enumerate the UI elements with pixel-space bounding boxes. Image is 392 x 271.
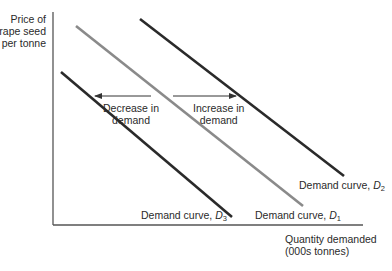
label-prefix: Demand curve, (141, 209, 215, 221)
x-axis-label-line: (000s tonnes) (285, 245, 377, 257)
label-subscript: 1 (337, 214, 341, 223)
label-subscript: 3 (223, 214, 227, 223)
annotation-line: Increase in (193, 102, 244, 114)
y-axis-label-line: per tonne (0, 37, 46, 49)
label-letter: D (215, 209, 223, 221)
y-axis-label: Price of rape seed per tonne (0, 13, 46, 49)
d3-label: Demand curve, D3 (141, 209, 227, 225)
label-letter: D (373, 179, 381, 191)
x-axis-label: Quantity demanded (000s tonnes) (285, 233, 377, 257)
annotation-line: demand (193, 114, 244, 126)
d2-label: Demand curve, D2 (299, 179, 385, 195)
demand-curve-d2 (140, 19, 344, 176)
label-subscript: 2 (381, 184, 385, 193)
d1-label: Demand curve, D1 (255, 209, 341, 225)
y-axis-label-line: rape seed (0, 25, 46, 37)
increase-annotation: Increase in demand (193, 102, 244, 126)
label-prefix: Demand curve, (299, 179, 373, 191)
label-prefix: Demand curve, (255, 209, 329, 221)
annotation-line: Decrease in (103, 102, 159, 114)
label-letter: D (329, 209, 337, 221)
x-axis-label-line: Quantity demanded (285, 233, 377, 245)
demand-curve-d3 (61, 72, 232, 217)
y-axis-label-line: Price of (0, 13, 46, 25)
annotation-line: demand (103, 114, 159, 126)
demand-shift-diagram (0, 0, 392, 271)
decrease-annotation: Decrease in demand (103, 102, 159, 126)
